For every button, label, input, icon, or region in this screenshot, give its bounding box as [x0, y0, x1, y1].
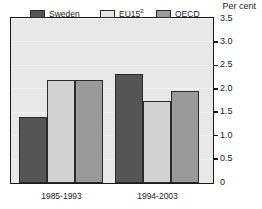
legend-swatch-oecd [156, 10, 171, 18]
bar-sweden-1994-2003 [115, 74, 143, 183]
bar-eu15-1994-2003 [143, 101, 171, 183]
y-axis-label: 3.5 [220, 14, 233, 23]
y-axis-label: 1.5 [220, 107, 233, 116]
legend-swatch-eu15 [100, 10, 115, 18]
y-tick [214, 158, 218, 160]
y-axis-label: 1.0 [220, 131, 233, 140]
y-axis-label: 3.0 [220, 37, 233, 46]
legend-label-eu15: EU152 [119, 9, 144, 19]
y-tick [214, 41, 218, 43]
chart-root: Per cent 00.51.01.52.02.53.03.5 1985-199… [0, 0, 262, 209]
legend-item-sweden[interactable]: Sweden [30, 9, 80, 19]
legend-item-eu15[interactable]: EU152 [100, 9, 144, 19]
gridline [11, 88, 213, 89]
gridline [11, 41, 213, 42]
y-axis-label: 2.0 [220, 84, 233, 93]
y-axis-label: 0.5 [220, 154, 233, 163]
gridline [11, 65, 213, 66]
bar-sweden-1985-1993 [19, 117, 47, 183]
y-tick [214, 111, 218, 113]
y-tick [214, 65, 218, 67]
legend-label-sweden: Sweden [49, 9, 80, 19]
y-tick [214, 135, 218, 137]
legend-swatch-sweden [30, 10, 45, 18]
x-axis-label-1985-1993: 1985-1993 [22, 191, 102, 201]
y-tick [214, 88, 218, 90]
y-axis-label: 2.5 [220, 60, 233, 69]
legend-label-oecd: OECD [175, 9, 200, 19]
axis-title: Per cent [222, 1, 256, 11]
y-axis-label: 0 [220, 178, 225, 187]
x-axis-label-1994-2003: 1994-2003 [118, 191, 198, 201]
plot-inner [11, 18, 213, 183]
plot-area [10, 17, 214, 184]
bar-eu15-1985-1993 [47, 80, 75, 183]
legend-label-eu15-superscript: 2 [140, 8, 143, 14]
legend-item-oecd[interactable]: OECD [156, 9, 200, 19]
bar-oecd-1985-1993 [75, 80, 103, 183]
bar-oecd-1994-2003 [171, 91, 199, 183]
